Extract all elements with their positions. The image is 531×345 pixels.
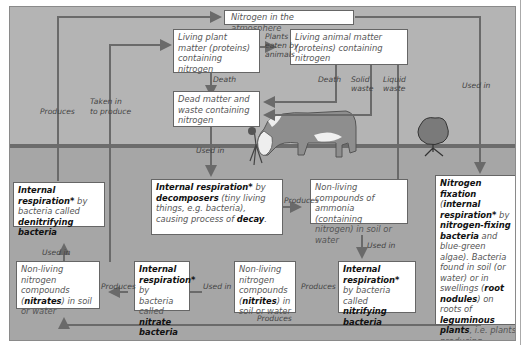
living-plant-text: Living plant matter (proteins) containin… [178, 32, 250, 74]
label-produces-nitrates: Produces [101, 282, 136, 292]
box-dead-matter: Dead matter and waste containing nitroge… [173, 91, 260, 127]
box-decomposers: Internal respiration* by decomposers (ti… [151, 179, 283, 235]
box-nitrate-bacteria: Internal respiration* by bacteria called… [134, 261, 190, 311]
fixation-bold1: Nitrogen fixation [440, 178, 481, 199]
label-used-in-nitrates: Used in [42, 248, 70, 258]
box-ammonia: Non-living compounds of ammonia (contain… [310, 179, 408, 224]
label-to-produce: to produce [90, 107, 131, 117]
label-produces-left: Produces [40, 107, 75, 117]
box-nitrates: Non-living nitrogen compounds (nitrates)… [16, 261, 100, 309]
label-liquid-waste: waste [383, 84, 405, 94]
page-edge-rule [520, 0, 521, 345]
label-used-in-nitrites: Used in [203, 282, 231, 292]
denitrifying-bold1: Internal respiration* [18, 185, 74, 206]
label-death-plant: Death [213, 75, 236, 85]
box-atmosphere: Nitrogen in the atmosphere [224, 10, 354, 25]
box-living-animal: Living animal matter (proteins) containi… [290, 29, 408, 65]
label-produces-ammonia: Produces [284, 196, 319, 206]
fixation-bold2: internal respiration* [440, 199, 496, 220]
nitrate-bacteria-bold1: Internal respiration* [139, 264, 195, 285]
label-solid-waste: waste [351, 84, 373, 94]
decomposers-bold2: decomposers [156, 193, 219, 203]
fixation-text2: by [496, 210, 509, 220]
label-used-in-right: Used in [462, 81, 490, 91]
decomposers-bold3: decay [237, 214, 265, 224]
box-fixation: Nitrogen fixation (internal respiration*… [435, 175, 516, 325]
label-produces-nitrites: Produces [301, 282, 336, 292]
nitrates-bold1: nitrates [24, 296, 61, 306]
nitrifying-bold2: nitrifying bacteria [343, 306, 387, 327]
fixation-bold3: nitrogen-fixing bacteria [440, 220, 511, 241]
nitrifying-bold1: Internal respiration* [343, 264, 399, 285]
nitrites-bold1: nitrites [242, 296, 277, 306]
box-living-plant: Living plant matter (proteins) containin… [173, 29, 260, 73]
nitrogen-cycle-diagram: Nitrogen in the atmosphere Living plant … [9, 6, 516, 341]
label-used-in-dead: Used in [196, 146, 224, 156]
box-denitrifying: Internal respiration* by bacteria called… [13, 182, 105, 227]
label-used-in-ammonia: Used in [367, 241, 395, 251]
box-nitrites: Non-living nitrogen compounds (nitrites)… [234, 261, 296, 313]
box-nitrifying: Internal respiration* by bacteria called… [338, 261, 416, 313]
decomposers-text1: by [253, 182, 266, 192]
nitrifying-text1: by bacteria called [343, 285, 390, 306]
living-animal-text: Living animal matter (proteins) containi… [295, 32, 383, 63]
decomposers-text3: . [264, 214, 267, 224]
dead-matter-text: Dead matter and waste containing nitroge… [178, 94, 250, 125]
label-produces-bottom: Produces [257, 314, 292, 324]
label-animals: animals [265, 50, 295, 60]
label-death-animal: Death [318, 75, 341, 85]
label-taken-in: Taken in [90, 97, 122, 107]
decomposers-bold1: Internal respiration* [156, 182, 253, 192]
